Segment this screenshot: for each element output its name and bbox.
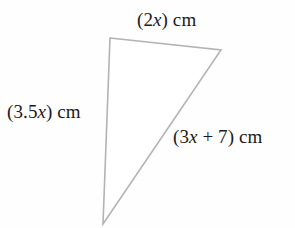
label-left-variable: x (37, 101, 46, 122)
label-top-prefix: (2 (137, 9, 153, 30)
side-label-left: (3.5x) cm (7, 102, 81, 122)
side-label-top: (2x) cm (137, 10, 196, 30)
label-left-prefix: (3.5 (7, 101, 37, 122)
label-hyp-variable: x (189, 126, 198, 147)
label-left-suffix: ) cm (46, 101, 81, 122)
label-hyp-prefix: (3 (173, 126, 189, 147)
side-label-hypotenuse: (3x + 7) cm (173, 127, 262, 147)
geometry-figure: (2x) cm (3.5x) cm (3x + 7) cm (0, 0, 295, 228)
label-top-suffix: ) cm (162, 9, 197, 30)
label-top-variable: x (153, 9, 162, 30)
label-hyp-suffix: + 7) cm (198, 126, 263, 147)
